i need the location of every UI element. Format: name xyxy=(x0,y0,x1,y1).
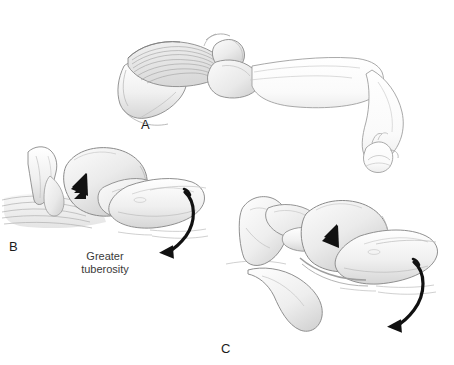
panel-a-upper-arm xyxy=(250,57,384,107)
panel-b-glenoid xyxy=(44,176,64,216)
panel-c-artwork xyxy=(226,197,438,333)
greater-tuberosity-line-1: Greater xyxy=(53,250,157,263)
panel-label-c: C xyxy=(221,342,231,355)
greater-tuberosity-line-2: tuberosity xyxy=(53,263,157,276)
panel-label-a: A xyxy=(141,118,150,131)
illustration-canvas xyxy=(0,0,454,365)
panel-label-b: B xyxy=(9,240,18,253)
panel-b-distal-lines xyxy=(118,229,208,238)
greater-tuberosity-annotation: Greater tuberosity xyxy=(53,250,157,276)
panel-c-scapular-blade xyxy=(248,268,322,331)
medical-illustration-figure: A B C Greater tuberosity xyxy=(0,0,454,365)
panel-b-artwork xyxy=(2,147,208,259)
panel-a-artwork xyxy=(118,34,403,173)
